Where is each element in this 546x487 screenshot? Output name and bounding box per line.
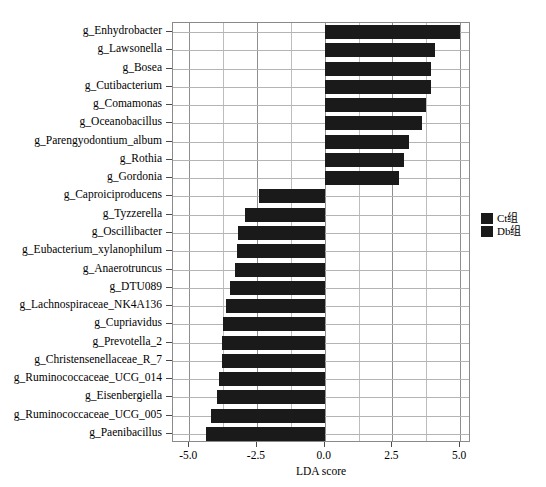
y-axis-tick-label: g_Enhydrobacter — [83, 25, 162, 36]
bar — [325, 43, 436, 57]
y-axis-tickmark — [166, 287, 172, 288]
y-axis-tick-label: g_Eisenbergiella — [85, 390, 162, 401]
bar — [325, 135, 410, 149]
y-axis-tickmark — [166, 415, 172, 416]
bar — [206, 427, 325, 441]
y-axis-tickmark — [166, 122, 172, 123]
y-axis-tick-label: g_Caproiciproducens — [64, 189, 162, 200]
y-axis-tickmark — [166, 49, 172, 50]
bar — [325, 80, 431, 94]
bar — [325, 116, 422, 130]
y-axis-tickmark — [166, 68, 172, 69]
y-axis-tickmark — [166, 86, 172, 87]
y-axis-tickmark — [166, 360, 172, 361]
y-axis-tick-label: g_Ruminococcaceae_UCG_005 — [14, 409, 162, 420]
bar — [245, 208, 325, 222]
x-axis-tickmark — [188, 442, 189, 447]
y-axis-tick-label: g_DTU089 — [110, 281, 162, 292]
y-axis-tick-label: g_Bosea — [122, 62, 162, 73]
y-axis-tickmark — [166, 323, 172, 324]
legend-label: Db组 — [497, 225, 521, 238]
gridline-horizontal — [173, 123, 469, 124]
y-axis-tick-label: g_Paenibacillus — [89, 427, 162, 438]
y-axis-tick-label: g_Cupriavidus — [94, 317, 162, 328]
y-axis-tickmark — [166, 305, 172, 306]
bar — [223, 317, 325, 331]
bar — [222, 336, 325, 350]
bar — [325, 98, 426, 112]
bar — [325, 153, 404, 167]
y-axis-tickmark — [166, 104, 172, 105]
bar — [235, 263, 325, 277]
y-axis-tick-label: g_Lawsonella — [97, 43, 162, 54]
y-axis-tick-label: g_Ruminococcaceae_UCG_014 — [14, 372, 162, 383]
lda-score-chart: g_Enhydrobacterg_Lawsonellag_Boseag_Cuti… — [0, 0, 546, 487]
bar — [211, 409, 325, 423]
y-axis-tickmark — [166, 214, 172, 215]
bar — [230, 281, 325, 295]
bar — [222, 354, 325, 368]
y-axis-tickmark — [166, 232, 172, 233]
x-axis-tickmark — [391, 442, 392, 447]
x-axis-tick-label: 2.5 — [384, 449, 398, 461]
y-axis-tickmark — [166, 433, 172, 434]
gridline-horizontal — [173, 142, 469, 143]
bar — [217, 390, 325, 404]
bar — [325, 171, 400, 185]
y-axis-tickmark — [166, 177, 172, 178]
y-axis-tickmark — [166, 378, 172, 379]
x-axis-tickmark — [324, 442, 325, 447]
y-axis-labels: g_Enhydrobacterg_Lawsonellag_Boseag_Cuti… — [0, 0, 170, 487]
bar — [237, 244, 325, 258]
y-axis-tickmark — [166, 195, 172, 196]
x-axis-tickmark — [256, 442, 257, 447]
y-axis-tick-label: g_Tyzzerella — [103, 208, 162, 219]
y-axis-tickmark — [166, 250, 172, 251]
legend-swatch-icon — [481, 226, 493, 237]
chart-legend: Ct组Db组 — [481, 212, 521, 238]
x-axis-tick-label: 0.0 — [317, 449, 331, 461]
bar — [238, 226, 325, 240]
x-axis-tick-label: -5.0 — [179, 449, 197, 461]
bar — [325, 25, 460, 39]
y-axis-tick-label: g_Comamonas — [93, 98, 162, 109]
y-axis-tickmark — [166, 159, 172, 160]
legend-item[interactable]: Ct组 — [481, 212, 521, 225]
y-axis-tickmark — [166, 269, 172, 270]
y-axis-tick-label: g_Cutibacterium — [85, 80, 162, 91]
y-axis-tick-label: g_Oscillibacter — [92, 226, 162, 237]
y-axis-tick-label: g_Eubacterium_xylanophilum — [22, 244, 162, 255]
y-axis-tick-label: g_Gordonia — [107, 171, 162, 182]
gridline-horizontal — [173, 160, 469, 161]
y-axis-tick-label: g_Lachnospiraceae_NK4A136 — [20, 299, 162, 310]
legend-item[interactable]: Db组 — [481, 225, 521, 238]
legend-swatch-icon — [481, 213, 493, 224]
x-axis-tick-label: 5.0 — [452, 449, 466, 461]
bar — [259, 189, 325, 203]
x-axis-title: LDA score — [172, 465, 470, 477]
bar — [219, 372, 325, 386]
y-axis-tick-label: g_Rothia — [120, 153, 162, 164]
y-axis-tickmark — [166, 342, 172, 343]
legend-label: Ct组 — [497, 212, 518, 225]
y-axis-tickmark — [166, 31, 172, 32]
x-axis-tick-label: -2.5 — [247, 449, 265, 461]
gridline-horizontal — [173, 178, 469, 179]
y-axis-tick-label: g_Anaerotruncus — [83, 263, 162, 274]
y-axis-tickmark — [166, 141, 172, 142]
y-axis-tick-label: g_Oceanobacillus — [80, 116, 162, 127]
plot-area — [172, 22, 470, 442]
y-axis-tick-label: g_Prevotella_2 — [92, 336, 162, 347]
y-axis-tick-label: g_Christensenellaceae_R_7 — [34, 354, 162, 365]
bar — [325, 62, 432, 76]
y-axis-tick-label: g_Parengyodontium_album — [34, 135, 162, 146]
bar — [226, 299, 324, 313]
y-axis-tickmark — [166, 396, 172, 397]
x-axis-tickmark — [459, 442, 460, 447]
